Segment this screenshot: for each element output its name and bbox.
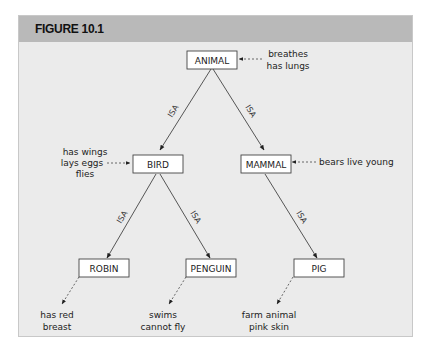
node-label: PENGUIN [191,264,232,274]
property-text: has wings [63,147,108,157]
property-text: breathes [268,49,308,59]
bird-properties: has wings lays eggs flies [61,147,108,179]
node-label: BIRD [147,160,169,170]
property-text: bears live young [319,157,394,167]
edge-animal-mammal [213,69,264,150]
node-penguin: PENGUIN [186,259,236,277]
edge-bird-penguin [160,174,210,258]
node-label: MAMMAL [246,160,287,170]
node-pig: PIG [294,259,344,277]
isa-label: ISA [166,103,181,119]
node-robin: ROBIN [79,259,129,277]
link-robin-props [62,277,79,304]
property-text: breast [43,322,72,332]
pig-properties: farm animal pink skin [242,310,296,332]
property-text: has lungs [266,61,309,71]
isa-label: ISA [243,103,258,119]
animal-properties: breathes has lungs [266,49,309,71]
link-pig-props [277,277,293,304]
node-mammal: MAMMAL [241,155,291,173]
node-label: PIG [311,264,326,274]
property-text: cannot fly [141,322,186,332]
robin-properties: has red breast [40,310,74,332]
edge-animal-bird [160,69,211,150]
link-penguin-props [169,277,186,304]
edge-mammal-pig [265,174,317,258]
property-text: farm animal [242,310,296,320]
property-text: flies [76,169,95,179]
isa-label: ISA [294,209,309,225]
node-animal: ANIMAL [187,51,237,69]
node-label: ROBIN [90,264,119,274]
isa-label: ISA [188,209,203,225]
property-text: swims [149,310,177,320]
penguin-properties: swims cannot fly [141,310,186,332]
mammal-properties: bears live young [319,157,394,167]
semantic-network-diagram: ISA ISA ISA ISA ISA ANIMAL BIRD MAMMAL R… [0,0,427,351]
edge-bird-robin [107,174,156,258]
property-text: lays eggs [61,158,104,168]
node-bird: BIRD [133,155,183,173]
node-label: ANIMAL [195,56,229,66]
property-text: pink skin [249,322,289,332]
property-text: has red [40,310,74,320]
